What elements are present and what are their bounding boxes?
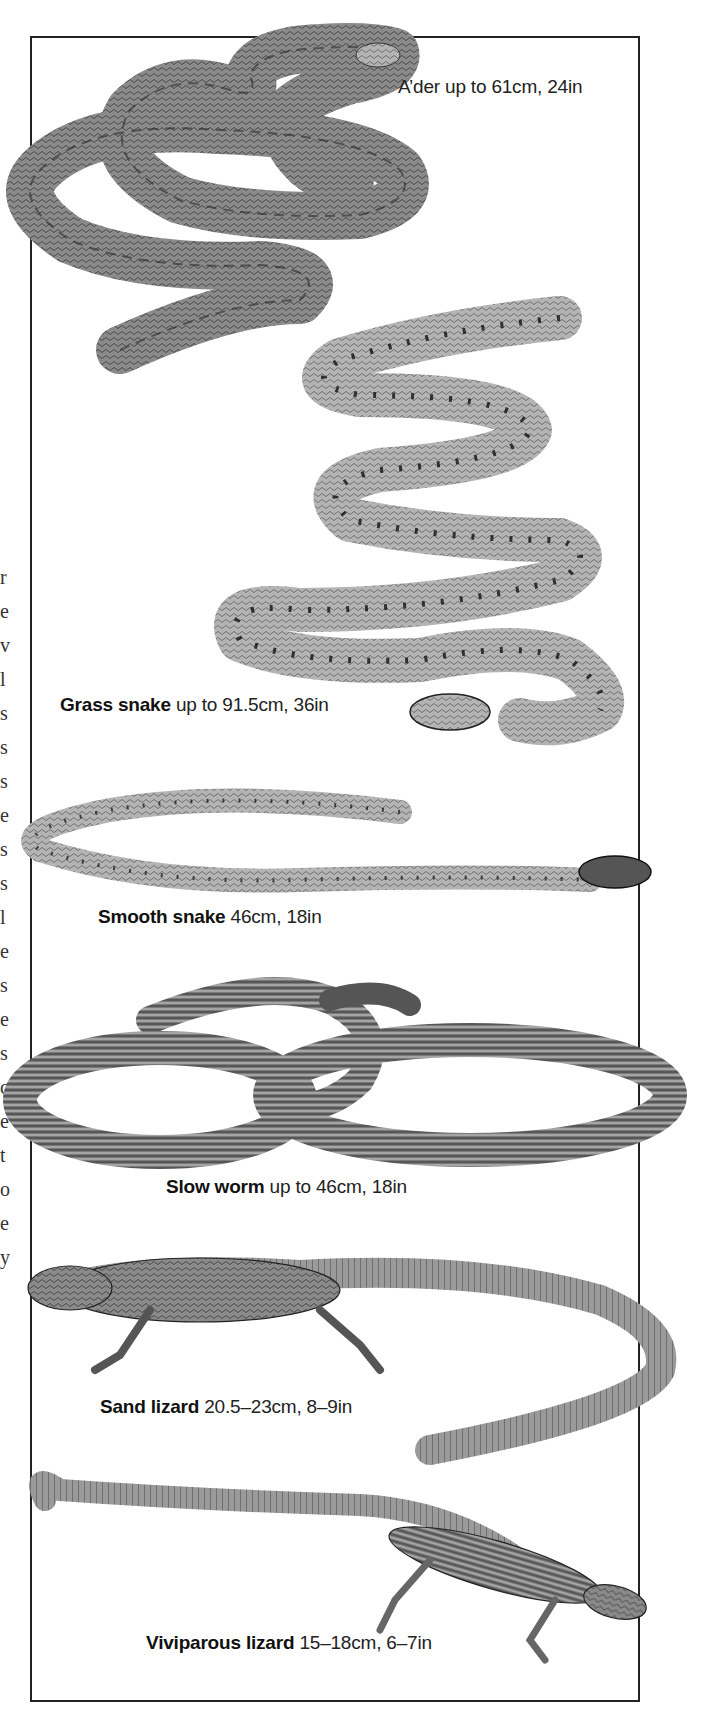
species-size: 20.5–23cm, 8–9in [204,1396,352,1417]
species-name: Viviparous lizard [146,1632,294,1653]
species-size: up to 46cm, 18in [270,1176,407,1197]
slow-worm-illustration [20,991,670,1152]
grass-snake-illustration [236,318,602,730]
sand-lizard-illustration [28,1258,661,1450]
species-name: Slow worm [166,1176,265,1197]
smooth-snake-illustration [33,800,651,888]
species-name: Sand lizard [100,1396,199,1417]
species-label-viviparous-lizard: Viviparous lizard 15–18cm, 6–7in [146,1632,432,1654]
species-size: up to 91.5cm, 36in [176,694,329,715]
reptile-illustrations [0,0,702,1728]
species-label-smooth-snake: Smooth snake 46cm, 18in [98,906,322,928]
species-label-grass-snake: Grass snake up to 91.5cm, 36in [60,694,329,716]
species-size: up to 61cm, 24in [445,76,582,97]
species-name: A’der [398,76,440,97]
species-size: 46cm, 18in [231,906,322,927]
species-name: Smooth snake [98,906,225,927]
species-label-slow-worm: Slow worm up to 46cm, 18in [166,1176,407,1198]
species-label-adder: A’der up to 61cm, 24in [398,76,582,98]
species-label-sand-lizard: Sand lizard 20.5–23cm, 8–9in [100,1396,352,1418]
species-size: 15–18cm, 6–7in [299,1632,431,1653]
adder-illustration [30,43,405,350]
species-name: Grass snake [60,694,171,715]
